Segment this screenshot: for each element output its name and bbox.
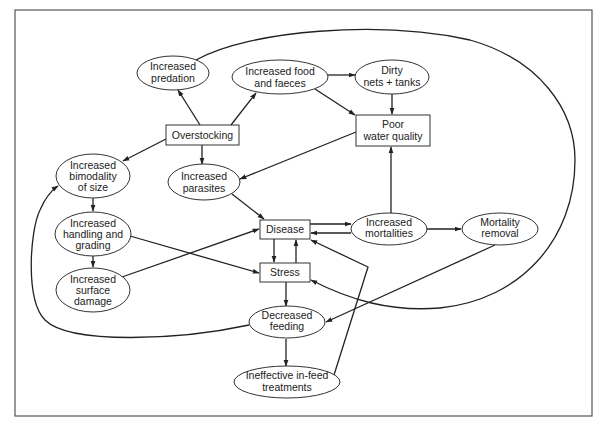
node-label: Increased — [181, 170, 227, 182]
node-increased-predation: Increased predation — [137, 56, 209, 90]
node-label: Ineffective in-feed — [246, 369, 329, 381]
node-label: feeding — [270, 320, 305, 332]
feedback-diagram: Increased predation Increased food and f… — [0, 0, 607, 429]
node-increased-surface-damage: Increased surface damage — [56, 268, 130, 312]
node-dirty-nets-tanks: Dirty nets + tanks — [355, 60, 429, 94]
node-label: treatments — [262, 381, 312, 393]
node-label: nets + tanks — [364, 76, 421, 88]
node-label: water quality — [363, 130, 424, 142]
node-ineffective-treatments: Ineffective in-feed treatments — [234, 366, 340, 398]
node-mortality-removal: Mortality removal — [462, 213, 538, 245]
node-label: Dirty — [381, 64, 403, 76]
node-overstocking: Overstocking — [166, 125, 239, 145]
node-increased-bimodality: Increased bimodality of size — [56, 154, 130, 198]
node-label: Poor — [382, 118, 405, 130]
node-label: of size — [78, 181, 109, 193]
node-increased-food-faeces: Increased food and faeces — [232, 60, 328, 94]
node-increased-parasites: Increased parasites — [168, 164, 240, 200]
node-label: Increased food — [245, 65, 315, 77]
node-label: damage — [74, 295, 112, 307]
node-label: predation — [151, 72, 195, 84]
node-decreased-feeding: Decreased feeding — [249, 306, 325, 338]
node-label: removal — [481, 227, 518, 239]
node-label: mortalities — [365, 227, 413, 239]
node-label: parasites — [183, 182, 226, 194]
node-label: and faeces — [254, 77, 305, 89]
node-disease: Disease — [260, 220, 310, 239]
node-increased-mortalities: Increased mortalities — [351, 213, 427, 245]
node-label: Stress — [270, 266, 300, 278]
node-label: Increased — [150, 60, 196, 72]
node-stress: Stress — [260, 263, 310, 282]
node-label: Overstocking — [172, 129, 233, 141]
node-increased-handling: Increased handling and grading — [55, 212, 131, 256]
node-label: Disease — [266, 223, 304, 235]
node-poor-water-quality: Poor water quality — [356, 115, 430, 146]
node-label: grading — [75, 239, 110, 251]
